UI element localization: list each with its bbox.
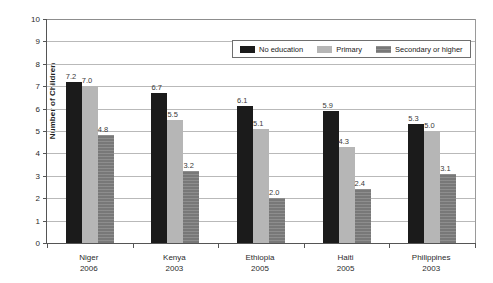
bar: 4.3 (339, 147, 355, 243)
category-year: 2003 (388, 263, 474, 274)
x-axis-tick (475, 243, 476, 248)
y-axis-tick-label: 7 (36, 82, 40, 91)
x-axis-category-label: Niger2006 (46, 252, 132, 274)
category-name: Ethiopia (246, 253, 275, 262)
legend-swatch (317, 46, 332, 53)
y-axis-tick-label: 5 (36, 127, 40, 136)
bar: 7.2 (66, 82, 82, 243)
bar: 7.0 (82, 86, 98, 243)
bar-value-label: 3.1 (440, 164, 450, 173)
gridline (47, 109, 475, 110)
x-axis-category-label: Haiti2005 (303, 252, 389, 274)
y-axis-tick (43, 221, 47, 222)
x-axis-category-label: Kenya2003 (132, 252, 218, 274)
y-axis-tick (43, 109, 47, 110)
gridline (47, 19, 475, 20)
bar-value-label: 5.5 (167, 110, 177, 119)
bar-value-label: 7.2 (66, 72, 76, 81)
legend-item: No education (240, 45, 303, 54)
bar-value-label: 6.7 (151, 83, 161, 92)
y-axis-tick (43, 153, 47, 154)
bar-value-label: 2.4 (355, 179, 365, 188)
y-axis-tick-label: 4 (36, 149, 40, 158)
y-axis-tick-label: 2 (36, 194, 40, 203)
bar-value-label: 4.8 (98, 125, 108, 134)
legend-label: Primary (336, 45, 362, 54)
y-axis-tick (43, 198, 47, 199)
chart-legend: No educationPrimarySecondary or higher (232, 40, 471, 58)
x-axis-tick (389, 243, 390, 248)
bar-value-label: 5.0 (424, 121, 434, 130)
category-year: 2006 (46, 263, 132, 274)
legend-item: Secondary or higher (376, 45, 463, 54)
bar: 6.7 (151, 93, 167, 243)
bar-value-label: 5.1 (253, 119, 263, 128)
category-name: Philippines (412, 253, 451, 262)
x-axis-category-label: Ethiopia2005 (217, 252, 303, 274)
bar: 3.2 (183, 171, 199, 243)
bar-value-label: 6.1 (237, 96, 247, 105)
x-axis-tick (133, 243, 134, 248)
bar: 5.5 (167, 120, 183, 243)
bar-value-label: 5.9 (323, 101, 333, 110)
bar: 4.8 (98, 135, 114, 243)
y-axis-tick-label: 9 (36, 37, 40, 46)
y-axis-tick (43, 41, 47, 42)
x-axis-tick (47, 243, 48, 248)
legend-label: Secondary or higher (395, 45, 463, 54)
gridline (47, 64, 475, 65)
bar-value-label: 3.2 (183, 161, 193, 170)
y-axis-tick-label: 6 (36, 104, 40, 113)
legend-item: Primary (317, 45, 362, 54)
y-axis-tick (43, 176, 47, 177)
bar: 6.1 (237, 106, 253, 243)
bar: 5.3 (408, 124, 424, 243)
bar-value-label: 2.0 (269, 188, 279, 197)
bar: 3.1 (440, 174, 456, 243)
bar: 5.1 (253, 129, 269, 243)
category-year: 2005 (217, 263, 303, 274)
category-name: Niger (79, 253, 98, 262)
category-year: 2003 (132, 263, 218, 274)
y-axis-tick-label: 3 (36, 171, 40, 180)
bar: 2.4 (355, 189, 371, 243)
x-axis-category-label: Philippines2003 (388, 252, 474, 274)
y-axis-tick (43, 19, 47, 20)
x-axis-tick (218, 243, 219, 248)
bar-chart: Number of Children 1098765432107.27.04.8… (0, 0, 493, 283)
category-name: Haiti (338, 253, 354, 262)
y-axis-tick (43, 86, 47, 87)
bar-value-label: 7.0 (82, 76, 92, 85)
y-axis-tick (43, 131, 47, 132)
gridline (47, 86, 475, 87)
legend-swatch (376, 46, 391, 53)
y-axis-tick-label: 10 (31, 15, 40, 24)
y-axis-tick-label: 8 (36, 59, 40, 68)
y-axis-tick-label: 1 (36, 216, 40, 225)
category-name: Kenya (163, 253, 186, 262)
y-axis-tick-label: 0 (36, 239, 40, 248)
bar: 5.9 (323, 111, 339, 243)
bar: 2.0 (269, 198, 285, 243)
category-year: 2005 (303, 263, 389, 274)
y-axis-tick (43, 64, 47, 65)
legend-swatch (240, 46, 255, 53)
bar: 5.0 (424, 131, 440, 243)
bar-value-label: 5.3 (408, 114, 418, 123)
x-axis-tick (304, 243, 305, 248)
bar-value-label: 4.3 (339, 137, 349, 146)
legend-label: No education (259, 45, 303, 54)
